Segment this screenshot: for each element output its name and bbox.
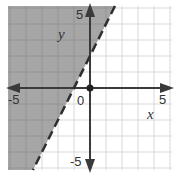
x-max-label: 5 [159, 92, 166, 107]
y-axis-arrow-down-icon [85, 159, 95, 173]
origin-point [87, 85, 94, 92]
y-max-label: 5 [76, 7, 83, 22]
y-axis-label: y [56, 26, 65, 42]
x-axis-label: x [146, 106, 154, 122]
y-min-label: -5 [70, 154, 82, 169]
origin-label: 0 [77, 93, 84, 108]
inequality-graph: 5 -5 -5 5 0 y x [0, 0, 180, 177]
x-min-label: -5 [8, 92, 20, 107]
